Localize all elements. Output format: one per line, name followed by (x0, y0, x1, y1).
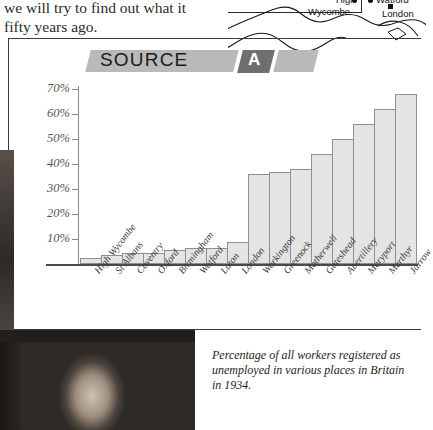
y-axis-tick-label-wrap: 70% (16, 81, 70, 95)
y-axis-tick-label: 40% (24, 156, 70, 171)
y-axis-tick (72, 164, 78, 165)
bar (395, 94, 417, 264)
y-axis-tick-label-wrap: 10% (16, 231, 70, 245)
y-axis-tick-label: 70% (24, 81, 70, 96)
photo-image (0, 330, 195, 430)
y-axis-tick-label: 20% (24, 206, 70, 221)
y-axis-tick (72, 139, 78, 140)
y-axis-tick-label: 30% (24, 181, 70, 196)
archive-photograph (0, 330, 195, 430)
y-axis-tick (72, 189, 78, 190)
y-axis-tick (72, 114, 78, 115)
y-axis-tick-label: 60% (24, 106, 70, 121)
y-axis-tick-label: 10% (24, 231, 70, 246)
figure-caption: Percentage of all workers registered as … (212, 348, 418, 393)
y-axis-tick-label-wrap: 20% (16, 206, 70, 220)
photo-top-band (0, 330, 195, 342)
y-axis-tick-label-wrap: 30% (16, 181, 70, 195)
caption-line-2: unemployed in various places in Britain (212, 363, 418, 378)
y-axis-tick-label-wrap: 50% (16, 131, 70, 145)
y-axis-tick (72, 214, 78, 215)
caption-line-3: in 1934. (212, 378, 418, 393)
y-axis-tick-label-wrap: 60% (16, 106, 70, 120)
photo-edge-sliver (0, 150, 14, 330)
photo-left-shadow (0, 330, 22, 430)
y-axis-tick (72, 89, 78, 90)
y-axis-line (78, 86, 79, 265)
y-axis-tick (72, 239, 78, 240)
caption-line-1: Percentage of all workers registered as (212, 348, 418, 363)
y-axis-tick-label: 50% (24, 131, 70, 146)
y-axis-tick-label-wrap: 40% (16, 156, 70, 170)
